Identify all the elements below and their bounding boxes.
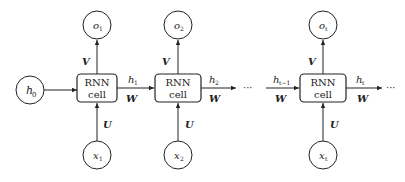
cell2-line1: RNN (165, 77, 190, 88)
ht-minus-1-subscript: t−1 (279, 79, 290, 86)
xt-subscript: t (325, 155, 328, 162)
input-node-t: x t (309, 141, 337, 169)
cell2-line2: cell (169, 89, 187, 100)
x1-subscript: 1 (99, 155, 103, 162)
cellt-line1: RNN (310, 77, 335, 88)
rnn-cell-1: RNN cell (77, 74, 117, 102)
v-weight-t: V (308, 56, 317, 67)
output-node-2: o 2 (164, 11, 192, 39)
u-weight-1: U (103, 119, 113, 130)
w-weight-prev: W (275, 93, 288, 104)
h2-subscript: 2 (215, 79, 219, 86)
x2-subscript: 2 (180, 155, 184, 162)
w-weight-2: W (209, 93, 222, 104)
cellt-line2: cell (314, 89, 332, 100)
rnn-diagram: h 0 RNN cell o 1 V x 1 U h 1 W RNN cell … (0, 0, 405, 182)
input-node-2: x 2 (164, 141, 192, 169)
ellipsis-middle: ··· (243, 82, 253, 93)
w-weight-t: W (357, 93, 370, 104)
cell1-line1: RNN (84, 77, 109, 88)
output-node-t: o t (309, 11, 337, 39)
u-weight-t: U (330, 119, 340, 130)
input-node-1: x 1 (83, 141, 111, 169)
rnn-cell-2: RNN cell (155, 74, 201, 102)
o2-subscript: 2 (180, 25, 184, 32)
v-weight-2: V (162, 56, 171, 67)
h1-subscript: 1 (134, 79, 138, 86)
output-node-1: o 1 (83, 11, 111, 39)
rnn-cell-t: RNN cell (300, 74, 346, 102)
ellipsis-end: ··· (386, 82, 396, 93)
cell1-line2: cell (88, 89, 106, 100)
w-weight-1: W (126, 93, 139, 104)
ht-subscript: t (362, 79, 365, 86)
o1-subscript: 1 (99, 25, 103, 32)
h0-subscript: 0 (32, 91, 36, 99)
h0-node: h 0 (16, 76, 44, 104)
ot-subscript: t (325, 25, 328, 32)
u-weight-2: U (185, 119, 195, 130)
v-weight-1: V (82, 56, 91, 67)
